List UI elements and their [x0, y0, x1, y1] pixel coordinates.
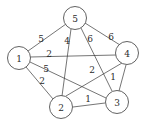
edge-weight-5-2: 4 — [64, 36, 70, 46]
graph-node-2[interactable]: 2 — [50, 96, 73, 119]
graph-node-4[interactable]: 4 — [116, 42, 139, 65]
edge-weight-2-4: 2 — [89, 65, 95, 75]
edge-weight-1-4: 2 — [46, 49, 52, 59]
edge-weight-3-4: 1 — [110, 72, 116, 82]
edge-weight-5-3: 6 — [87, 34, 93, 44]
node-label-5: 5 — [72, 14, 78, 24]
edge-weights-layer: 5466252211 — [38, 32, 116, 104]
graph-edge-3-4 — [119, 65, 126, 91]
graph-edge-1-5 — [28, 24, 66, 51]
edge-weight-2-3: 1 — [85, 94, 91, 104]
edge-weight-1-5: 5 — [38, 34, 44, 44]
graph-node-3[interactable]: 3 — [106, 91, 129, 114]
node-label-3: 3 — [114, 98, 120, 108]
node-label-4: 4 — [124, 49, 130, 59]
graph-canvas: 5466252211 51423 — [0, 0, 146, 125]
node-label-1: 1 — [16, 54, 22, 64]
edge-weight-1-3: 5 — [43, 64, 49, 74]
graph-figure: 5466252211 51423 — [0, 0, 146, 125]
graph-edge-1-4 — [30, 55, 116, 57]
node-label-2: 2 — [58, 103, 64, 113]
graph-node-5[interactable]: 5 — [64, 7, 87, 30]
graph-node-1[interactable]: 1 — [8, 47, 31, 70]
edge-weight-1-2: 2 — [39, 76, 45, 86]
nodes-layer: 51423 — [8, 7, 139, 119]
edge-weight-5-4: 6 — [108, 32, 114, 42]
